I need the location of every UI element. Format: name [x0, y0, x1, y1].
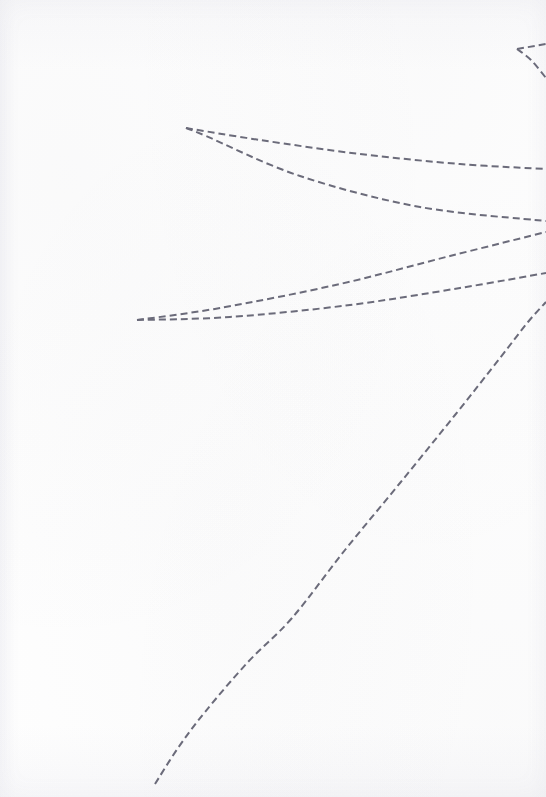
curve-vein-1-upper	[186, 128, 546, 169]
curve-corner-spur-upper	[517, 44, 546, 49]
curve-corner-spur-lower	[517, 49, 546, 78]
curve-long-diagonal	[155, 302, 546, 784]
curve-vein-1-lower	[186, 128, 546, 221]
curve-vein-2-lower	[137, 273, 546, 320]
curve-group	[137, 44, 546, 784]
dashed-curve-layer	[0, 0, 546, 797]
figure-canvas	[0, 0, 546, 797]
